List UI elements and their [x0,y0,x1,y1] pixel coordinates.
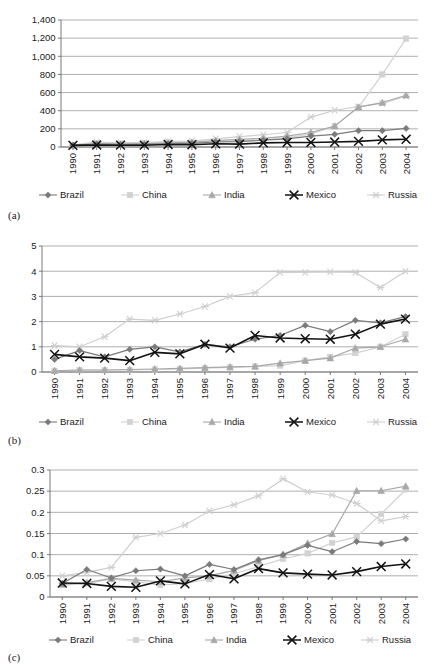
data-point-russia-0 [51,342,59,348]
legend-marker-russia [361,637,379,643]
data-point-russia-4 [151,317,159,323]
legend-label-mexico: Mexico [306,416,336,427]
gridlines [61,20,418,147]
x-tick-label-13: 2003 [375,378,386,399]
x-tick-label-12: 2002 [351,603,362,624]
x-tick-label-4: 1994 [163,153,174,174]
data-point-brazil-11 [327,329,333,335]
data-point-brazil-legend [45,419,51,425]
legend-marker-china [121,419,139,424]
x-tick-label-12: 2002 [353,153,364,174]
legend-marker-mexico [285,418,303,427]
data-point-brazil-1 [77,347,83,353]
data-point-russia-2 [107,564,115,570]
data-point-brazil-12 [355,128,361,134]
x-tick-label-10: 2000 [300,378,311,399]
data-point-brazil-4 [157,566,163,572]
data-point-russia-10 [301,269,309,275]
x-tick-label-14: 2004 [400,603,411,624]
legend-marker-china [127,637,145,642]
y-tick-label-0: 0 [50,141,55,152]
x-tick-label-6: 1996 [204,603,215,624]
data-point-china-legend [127,192,132,197]
x-tick-label-4: 1994 [149,378,160,399]
legend-label-india: India [226,634,247,645]
legend-marker-india [205,637,223,643]
data-point-china-legend [133,637,138,642]
x-tick-labels: 1990199119921993199419951996199719981999… [67,147,411,174]
x-tick-label-9: 1999 [282,153,293,174]
x-tick-label-11: 2001 [327,603,338,624]
data-point-russia-14 [402,513,410,519]
chart-svg-a: 02004006008001,0001,2001,400199019911992… [0,0,438,228]
y-tick-label-3: 3 [31,291,36,302]
legend-marker-brazil [39,419,57,425]
legend-marker-russia [367,192,385,198]
y-tick-label-1: 1 [31,341,36,352]
data-point-india-14 [402,483,409,489]
x-tick-label-6: 1996 [210,153,221,174]
x-tick-label-8: 1998 [253,603,264,624]
x-tick-label-0: 1990 [57,603,68,624]
legend-label-russia: Russia [388,189,418,200]
data-point-russia-5 [176,311,184,317]
y-tick-labels: 012345 [31,240,42,377]
x-tick-label-10: 2000 [305,153,316,174]
data-point-russia-legend [372,419,380,425]
axes [42,246,418,372]
data-point-china-10 [305,551,310,556]
y-tick-label-1: 0.05 [26,570,45,581]
x-tick-label-11: 2001 [329,153,340,174]
legend: BrazilChinaIndiaMexicoRussia [39,416,418,427]
data-point-brazil-14 [403,536,409,542]
x-tick-label-1: 1991 [74,378,85,399]
data-point-russia-legend [366,637,374,643]
data-point-china-legend [127,419,132,424]
x-tick-label-3: 1993 [139,153,150,174]
legend-label-china: China [142,416,168,427]
y-tick-label-4: 0.2 [31,507,44,518]
data-point-russia-10 [304,489,312,495]
x-tick-label-7: 1997 [228,603,239,624]
data-point-brazil-11 [329,549,335,555]
x-tick-label-14: 2004 [401,153,412,174]
data-point-brazil-4 [152,344,158,350]
y-tick-label-0: 0 [31,366,36,377]
x-tick-label-2: 1992 [106,603,117,624]
legend-marker-india [203,419,221,425]
y-tick-label-3: 0.15 [26,528,45,539]
series-russia [51,268,410,350]
legend-label-russia: Russia [388,416,418,427]
legend: BrazilChinaIndiaMexicoRussia [49,634,412,645]
data-point-brazil-12 [352,317,358,323]
legend-marker-mexico [285,191,303,200]
data-point-russia-11 [328,492,336,498]
legend-label-brazil: Brazil [70,634,94,645]
x-tick-label-1: 1991 [81,603,92,624]
y-tick-label-5: 5 [31,240,36,251]
panel-letter: (c) [8,651,21,664]
data-point-brazil-10 [302,322,308,328]
y-tick-label-6: 1,200 [32,32,56,43]
x-tick-label-5: 1995 [179,603,190,624]
legend-marker-india [203,192,221,198]
x-tick-label-12: 2002 [350,378,361,399]
legend-label-india: India [224,189,245,200]
x-tick-label-0: 1990 [49,378,60,399]
x-tick-label-14: 2004 [400,378,411,399]
x-tick-label-5: 1995 [174,378,185,399]
gridlines [42,246,418,372]
data-point-russia-11 [326,269,334,275]
x-tick-label-4: 1994 [155,603,166,624]
y-tick-label-4: 4 [31,266,36,277]
data-point-russia-6 [201,303,209,309]
chart-panel-b: 0123451990199119921993199419951996199719… [0,228,438,450]
y-tick-label-0: 0 [39,591,44,602]
data-point-brazil-6 [206,561,212,567]
data-point-china-11 [329,540,334,545]
x-tick-label-9: 1999 [275,378,286,399]
y-tick-label-3: 600 [40,87,56,98]
x-tick-label-3: 1993 [130,603,141,624]
x-tick-labels: 1990199119921993199419951996199719981999… [49,372,411,399]
data-point-brazil-3 [133,568,139,574]
